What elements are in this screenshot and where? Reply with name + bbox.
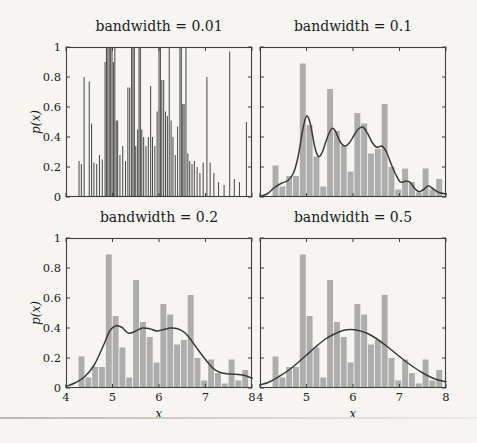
histogram-bar [436,179,442,197]
plot-canvas-bandwidth-0-2 [66,238,252,388]
panel-bandwidth-0-2: bandwidth = 0.2 00.20.40.60.8145678 [66,238,252,388]
histogram-bar [126,378,132,389]
page-rule [0,417,477,419]
histogram-bar [279,378,285,389]
x-tick-label: 4 [248,390,272,404]
histogram-bar [106,255,112,389]
histogram-bar [201,381,207,389]
plot-canvas-bandwidth-0-5 [260,238,446,388]
histogram-bar [361,315,367,389]
histogram-bar [181,340,187,388]
panel-bandwidth-0-1: bandwidth = 0.1 [260,47,446,197]
panel-title-bandwidth-0-1: bandwidth = 0.1 [260,18,446,35]
y-tick-label: 0 [33,190,61,204]
histogram-bar [389,358,395,388]
histogram-bar [327,89,333,197]
histogram-bar [92,367,98,388]
histogram-bar [99,367,105,388]
histogram-bar [354,304,360,388]
histogram-bar [327,280,333,388]
histogram-bar [85,378,91,389]
histogram-bar [147,337,153,388]
x-tick-label: 5 [295,390,319,404]
histogram-bar [160,304,166,388]
histogram-bar [293,367,299,388]
plot-canvas-bandwidth-0-1 [260,47,446,197]
histogram-bar [279,187,285,198]
histogram-bar [119,348,125,389]
histogram-bar [293,176,299,197]
histogram-bar [215,373,221,388]
y-tick-label: 0.2 [33,351,61,365]
histogram-bar [368,154,374,198]
histogram-bar [320,187,326,198]
plot-canvas-bandwidth-0-01 [66,47,252,197]
x-tick-label: 7 [388,390,412,404]
histogram-bar [354,113,360,197]
histogram-bar [133,280,139,388]
histogram-bar [429,381,435,389]
histogram-bar [140,322,146,388]
histogram-bar [368,345,374,389]
panel-title-bandwidth-0-5: bandwidth = 0.5 [260,209,446,226]
y-tick-label: 1 [33,40,61,54]
histogram-bar [300,255,306,389]
histogram-bar [395,381,401,389]
histogram-bar [307,125,313,197]
x-tick-label: 6 [341,390,365,404]
histogram-bar [402,360,408,389]
histogram-bar [242,370,248,388]
panel-title-bandwidth-0-2: bandwidth = 0.2 [66,209,252,226]
histogram-bar [341,337,347,388]
panel-bandwidth-0-5: bandwidth = 0.5 45678 [260,238,446,388]
histogram-bar [361,124,367,198]
x-axis-label-left: x [156,407,163,421]
histogram-bar [79,357,85,389]
x-tick-label: 6 [147,390,171,404]
histogram-bar [273,166,279,198]
histogram-bar [235,381,241,389]
x-tick-label: 5 [101,390,125,404]
histogram-bar [375,340,381,388]
x-axis-label-right: x [350,407,357,421]
y-tick-label: 0.8 [33,70,61,84]
histogram-bar [273,357,279,389]
y-tick-label: 1 [33,231,61,245]
y-tick-label: 0.8 [33,261,61,275]
panel-bandwidth-0-01: bandwidth = 0.01 00.20.40.60.81 [66,47,252,197]
y-axis-label-top: p(x) [29,110,43,134]
x-tick-label: 7 [194,390,218,404]
figure-page: bandwidth = 0.01 00.20.40.60.81 bandwidt… [0,0,477,443]
histogram-bar [423,169,429,198]
histogram-bar [195,358,201,388]
panel-title-bandwidth-0-01: bandwidth = 0.01 [66,18,252,35]
histogram-bar [313,348,319,389]
histogram-bar [375,149,381,197]
y-tick-label: 0.2 [33,160,61,174]
histogram-bar [313,157,319,198]
histogram-bar [167,315,173,389]
x-tick-label: 8 [434,390,458,404]
y-axis-label-bottom: p(x) [29,301,43,325]
x-tick-label: 4 [54,390,78,404]
histogram-bar [174,345,180,389]
histogram-bar [320,378,326,389]
histogram-bar [395,190,401,198]
histogram-bar [402,169,408,198]
histogram-bar [382,104,388,197]
histogram-bar [341,146,347,197]
histogram-bar [382,295,388,388]
histogram-bar [409,373,415,388]
